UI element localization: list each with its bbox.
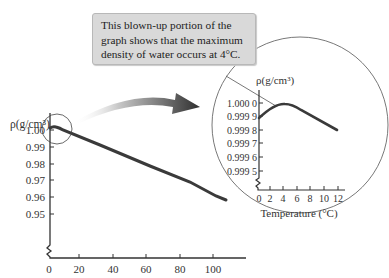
main-xtick-label: 80 — [175, 263, 187, 275]
inset-xtick-label: 0 — [257, 193, 262, 204]
callout-line: graph shows that the maximum — [101, 33, 247, 48]
callout-line: This blown-up portion of the — [101, 18, 247, 33]
inset-xtick-label: 10 — [319, 193, 329, 204]
main-ytick-label: 0.95 — [26, 208, 46, 220]
annotation-callout: This blown-up portion of the graph shows… — [92, 13, 256, 65]
curved-arrow — [74, 93, 200, 124]
main-density-curve — [50, 127, 226, 200]
arrow-icon — [74, 93, 200, 124]
main-xtick-label: 20 — [74, 263, 86, 275]
main-xtick-label: 40 — [108, 263, 120, 275]
inset-ytick-label: 0.999 7 — [227, 138, 257, 149]
main-ytick-label: 0.97 — [26, 174, 46, 186]
main-ytick-label: 0.96 — [26, 191, 46, 203]
main-ytick-label: 0.99 — [26, 141, 46, 153]
inset-ytick-label: 0.999 6 — [227, 152, 257, 163]
main-chart: ρ(g/cm³) 1.00 0.99 0.98 0.97 0.96 0.95 — [10, 113, 246, 275]
main-xtick-label: 0 — [46, 263, 52, 275]
inset-xtick-label: 8 — [308, 193, 313, 204]
inset-xtick-label: 12 — [333, 193, 343, 204]
inset-y-axis-label: ρ(g/cm³) — [256, 74, 294, 87]
inset-xtick-label: 2 — [268, 193, 273, 204]
inset-ytick-label: 0.999 5 — [227, 166, 257, 177]
callout-line: density of water occurs at 4°C. — [101, 47, 247, 62]
main-xtick-label: 60 — [141, 263, 153, 275]
main-ytick-label: 0.98 — [26, 158, 46, 170]
main-xtick-label: 100 — [205, 263, 222, 275]
inset-x-axis-label: Temperature (°C) — [260, 207, 338, 220]
inset-xtick-label: 6 — [295, 193, 300, 204]
inset-xtick-label: 4 — [281, 193, 286, 204]
inset-ytick-label: 0.999 9 — [227, 111, 257, 122]
inset-ytick-label: 1.000 0 — [227, 98, 257, 109]
inset-ytick-label: 0.999 8 — [227, 125, 257, 136]
